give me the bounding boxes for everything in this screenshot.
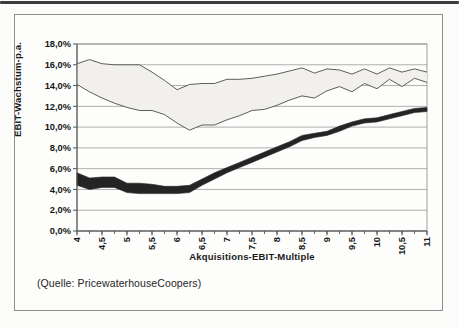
x-tick-label: 9,5 [347, 237, 357, 250]
y-tick-label: 12,0% [45, 102, 72, 112]
y-tick-label: 8,0% [50, 143, 72, 153]
y-tick-label: 18,0% [45, 39, 72, 49]
x-tick-label: 10 [372, 237, 382, 247]
x-tick-label: 8,5 [297, 237, 307, 250]
x-tick-label: 6 [172, 237, 182, 242]
source-caption: (Quelle: PricewaterhouseCoopers) [37, 277, 201, 289]
y-tick-label: 10,0% [45, 122, 72, 132]
y-tick-label: 16,0% [45, 60, 72, 70]
y-tick-label: 14,0% [45, 81, 72, 91]
lower-band-area [77, 107, 427, 193]
y-tick-label: 6,0% [50, 164, 72, 174]
x-tick-label: 5,5 [147, 237, 157, 250]
y-tick-label: 2,0% [50, 205, 72, 215]
x-tick-label: 4,5 [97, 237, 107, 250]
y-tick-label: 0,0% [50, 226, 72, 236]
x-tick-label: 6,5 [197, 237, 207, 250]
x-tick-label: 7 [222, 237, 232, 242]
scanned-page: 0,0%2,0%4,0%6,0%8,0%10,0%12,0%14,0%16,0%… [0, 0, 459, 329]
x-axis-title: Akquisitions-EBIT-Multiple [77, 251, 427, 262]
x-tick-label: 9 [322, 237, 332, 242]
x-tick-label: 5 [122, 237, 132, 242]
x-tick-label: 11 [422, 237, 432, 247]
y-tick-label: 4,0% [50, 185, 72, 195]
x-tick-label: 8 [272, 237, 282, 242]
x-tick-label: 7,5 [247, 237, 257, 250]
x-tick-label: 4 [72, 236, 82, 242]
